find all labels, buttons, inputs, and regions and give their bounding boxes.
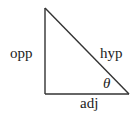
right-triangle-diagram: opp hyp θ adj [0, 0, 134, 117]
angle-theta-label: θ [103, 75, 111, 91]
triangle-svg: opp hyp θ adj [0, 0, 134, 117]
adjacent-label: adj [80, 95, 98, 111]
hypotenuse-label: hyp [100, 45, 123, 61]
opposite-label: opp [10, 45, 33, 61]
